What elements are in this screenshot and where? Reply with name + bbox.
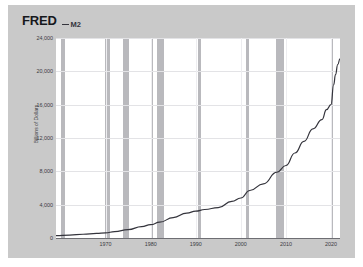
legend: M2: [62, 21, 81, 29]
y-axis-tick-label: 24,000: [9, 35, 53, 41]
y-axis-tick-label: 12,000: [9, 135, 53, 141]
line-swatch-icon: [62, 24, 69, 25]
plot-area: [56, 38, 340, 238]
legend-series-label: M2: [71, 21, 81, 29]
fred-logo: FRED: [22, 14, 57, 27]
y-axis-tick-label: 4,000: [9, 202, 53, 208]
x-axis-tick-label: 1980: [145, 241, 157, 248]
x-axis-tick-label: 2000: [235, 241, 247, 248]
y-axis-tick-labels: 24,00020,00016,00012,0008,0004,0000: [8, 38, 53, 238]
x-axis-baseline: [56, 238, 340, 239]
x-axis-tick-label: 1970: [100, 241, 112, 248]
chart-header: FRED M2: [22, 14, 81, 30]
x-axis-tick-label: 2010: [280, 241, 292, 248]
x-axis-tick-label: 1990: [190, 241, 202, 248]
y-axis-tick-label: 20,000: [9, 68, 53, 74]
x-axis-tick-label: 2020: [325, 241, 337, 248]
y-axis-tick-label: 0: [9, 235, 53, 241]
series-path-m2: [56, 59, 340, 236]
y-axis-tick-label: 8,000: [9, 168, 53, 174]
series-m2-line: [56, 38, 340, 238]
y-axis-title: Billions of Dollars: [33, 88, 39, 160]
fred-chart-panel: FRED M2 24,00020,00016,00012,0008,0004,0…: [8, 5, 355, 258]
x-axis-tick-labels: 197019801990200020102020: [56, 241, 340, 251]
y-axis-tick-label: 16,000: [9, 102, 53, 108]
